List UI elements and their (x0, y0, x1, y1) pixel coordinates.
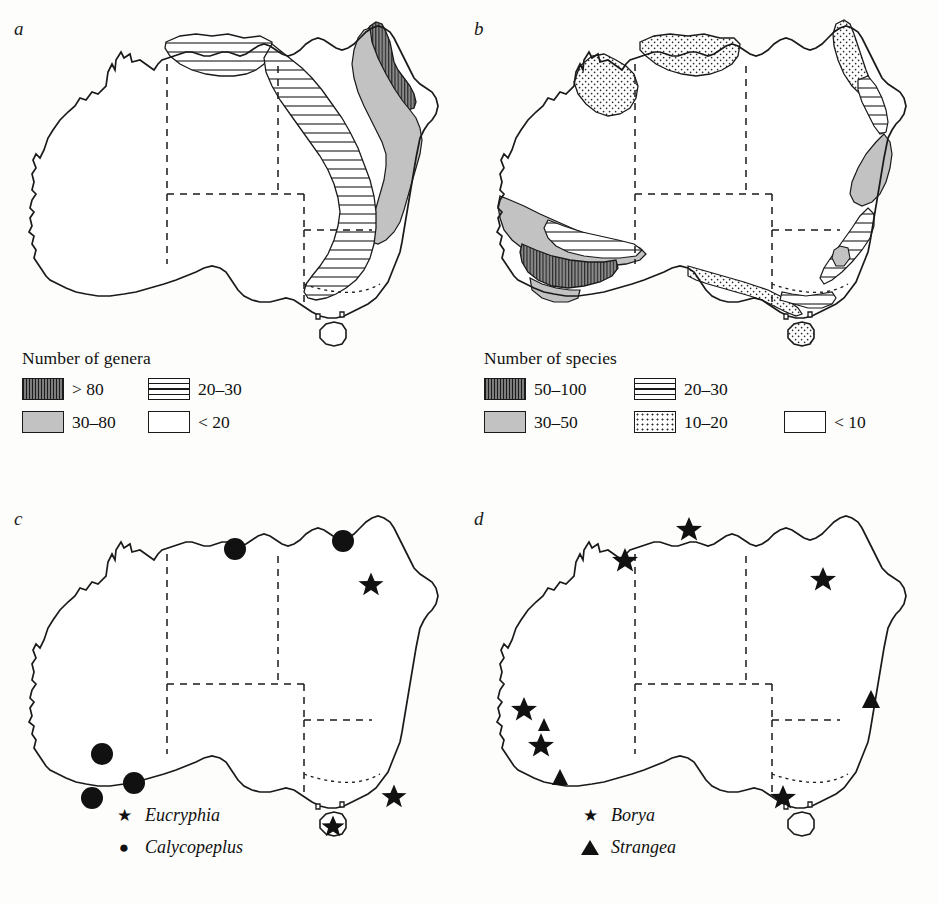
swatch-dark-vertical-hatch-icon (484, 378, 526, 400)
marker-circle-calycopeplus (81, 787, 103, 809)
legend-a-entry-1-label: 20–30 (198, 379, 242, 400)
swatch-plain-white-icon (784, 411, 826, 433)
panel-d-map (488, 498, 928, 838)
legend-c-entry-1-label: Calycopeplus (145, 837, 243, 858)
legend-c-entry-1: ● Calycopeplus (112, 837, 243, 858)
bass-islands-c (316, 804, 320, 809)
tasmania-a (320, 322, 346, 346)
legend-a-entry-0: > 80 (22, 378, 148, 400)
legend-a-row-2: 30–80 < 20 (22, 411, 242, 433)
bass-islands-b2 (808, 312, 812, 317)
swatch-horizontal-lines-icon (634, 378, 676, 400)
star-icon: ★ (112, 807, 136, 824)
panel-b: b (460, 0, 939, 470)
bass-islands-d2 (808, 802, 812, 807)
legend-b-entry-1-label: 20–30 (684, 379, 728, 400)
bass-islands-b (784, 314, 788, 319)
legend-d-entry-0-label: Borya (611, 805, 655, 826)
panel-c: c ★ Eucryphia ● Calycopeplus (0, 490, 470, 905)
marker-circle-calycopeplus (224, 538, 246, 560)
tasmania-d (788, 812, 814, 836)
swatch-plain-white-icon (148, 411, 190, 433)
legend-a-row-1: > 80 20–30 (22, 378, 242, 400)
legend-b-entry-4: < 10 (784, 411, 866, 433)
legend-b-entry-0: 50–100 (484, 378, 634, 400)
marker-star-borya (676, 517, 702, 541)
legend-a-entry-0-label: > 80 (72, 379, 104, 400)
legend-b-row-2: 30–50 10–20 < 10 (484, 411, 866, 433)
panel-d: d ★ Borya Strangea (460, 490, 939, 905)
legend-c-entry-0-label: Eucryphia (145, 805, 220, 826)
panel-d-label: d (474, 508, 484, 530)
circle-icon: ● (112, 839, 136, 856)
legend-b-entry-1: 20–30 (634, 378, 784, 400)
legend-b-entry-0-label: 50–100 (534, 379, 587, 400)
marker-circle-calycopeplus (91, 743, 113, 765)
legend-a-entry-3: < 20 (148, 411, 230, 433)
bass-islands-c2 (340, 802, 344, 807)
marker-circle-calycopeplus (332, 530, 354, 552)
legend-b-entry-2-label: 30–50 (534, 412, 578, 433)
legend-b: Number of species 50–100 20–30 30–50 (484, 348, 866, 433)
panel-b-label: b (474, 18, 484, 40)
marker-circle-calycopeplus (123, 772, 145, 794)
legend-b-entry-3-label: 10–20 (684, 412, 728, 433)
tasmania-b (788, 322, 814, 346)
legend-d-entry-1-label: Strangea (611, 837, 676, 858)
panel-c-map (20, 498, 460, 838)
legend-a-entry-2-label: 30–80 (72, 412, 116, 433)
legend-a-title: Number of genera (22, 348, 242, 369)
legend-a-entry-2: 30–80 (22, 411, 148, 433)
legend-a-entry-1: 20–30 (148, 378, 242, 400)
panel-a-map (20, 8, 460, 348)
legend-b-entry-2: 30–50 (484, 411, 634, 433)
legend-d-entry-0: ★ Borya (578, 805, 676, 826)
legend-d-entry-1: Strangea (578, 837, 676, 858)
legend-a: Number of genera > 80 20–30 30–80 (22, 348, 242, 433)
legend-b-entry-3: 10–20 (634, 411, 784, 433)
swatch-mid-grey-icon (22, 411, 64, 433)
marker-star-eucryphia (382, 785, 407, 808)
legend-c-entry-0: ★ Eucryphia (112, 805, 243, 826)
swatch-mid-grey-icon (484, 411, 526, 433)
legend-c: ★ Eucryphia ● Calycopeplus (112, 805, 243, 869)
panel-b-map (488, 8, 928, 348)
star-icon: ★ (578, 807, 602, 824)
australia-coast-d (497, 516, 906, 808)
triangle-icon (578, 840, 602, 855)
legend-d: ★ Borya Strangea (578, 805, 676, 869)
legend-b-entry-4-label: < 10 (834, 412, 866, 433)
bass-islands-a2 (340, 312, 344, 317)
legend-a-entry-3-label: < 20 (198, 412, 230, 433)
swatch-dots-icon (634, 411, 676, 433)
swatch-dark-vertical-hatch-icon (22, 378, 64, 400)
legend-b-title: Number of species (484, 348, 866, 369)
bass-islands-a (316, 314, 320, 319)
swatch-horizontal-lines-icon (148, 378, 190, 400)
panel-a: a (0, 0, 470, 470)
legend-b-row-1: 50–100 20–30 (484, 378, 866, 400)
